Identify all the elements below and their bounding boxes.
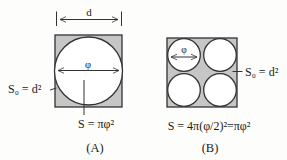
circle-area-label-a: S = πφ² xyxy=(78,117,114,131)
square-area-label-b: S₀ = d² xyxy=(245,65,279,79)
diameter-label-b: φ xyxy=(181,45,187,55)
circle-b-top-right xyxy=(204,39,237,72)
diameter-label-a: φ xyxy=(85,59,91,70)
figure-a: d φ S₀ = d² S = πφ² (A) xyxy=(8,6,123,155)
circle-b-top-left xyxy=(168,39,201,72)
diagram-canvas: d φ S₀ = d² S = πφ² (A) xyxy=(0,0,287,160)
square-area-label-a: S₀ = d² xyxy=(8,82,42,96)
dim-label-d: d xyxy=(86,6,92,18)
figure-b: φ S₀ = d² S = 4π(φ/2)²=πφ² (B) xyxy=(167,38,279,155)
circles-area-label-b: S = 4π(φ/2)²=πφ² xyxy=(168,119,251,133)
geometry-diagram: d φ S₀ = d² S = πφ² (A) xyxy=(0,0,287,160)
caption-a: (A) xyxy=(86,141,103,155)
circle-b-bottom-left xyxy=(168,74,201,107)
circle-b-bottom-right xyxy=(204,74,237,107)
caption-b: (B) xyxy=(202,141,219,155)
